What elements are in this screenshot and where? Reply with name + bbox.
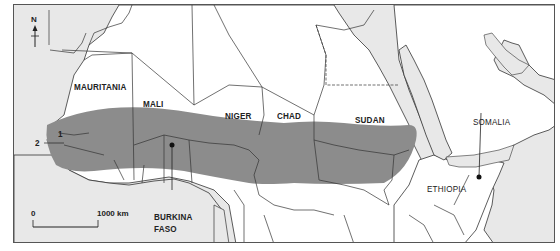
label-mali: MALI (143, 99, 164, 109)
somalia-callout-dot (477, 175, 482, 180)
label-ethiopia: ETHIOPIA (427, 184, 466, 194)
label-sudan: SUDAN (355, 115, 385, 125)
label-burkina: BURKINA (154, 212, 193, 222)
north-arrow-icon (29, 15, 41, 49)
burkina-callout-dot (170, 143, 175, 148)
label-mauritania: MAURITANIA (74, 82, 126, 92)
central-africa-coast (214, 205, 229, 243)
label-somalia: SOMALIA (473, 117, 510, 127)
scale-bar: 0 1000 km (31, 209, 131, 235)
label-niger: NIGER (225, 111, 252, 121)
label-chad: CHAD (277, 111, 301, 121)
map-frame: N MAURITANIA MALI NIGER CHAD SUDAN SOMAL… (13, 4, 555, 243)
callout-1: 1 (58, 129, 63, 139)
scale-bar-line (31, 209, 131, 235)
callout-2: 2 (35, 138, 40, 148)
north-arrow: N (29, 15, 41, 49)
label-faso: FASO (154, 224, 177, 234)
